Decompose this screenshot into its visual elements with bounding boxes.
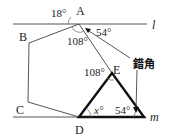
geometry-figure: 18° A 54° l B 108° 錯角 108° E C x° 54° m … [0, 0, 170, 140]
annotation-line-bottom [136, 70, 137, 111]
angle-label-x: x° [93, 104, 104, 116]
angle-label-108-a: 108° [67, 35, 88, 47]
point-label-d: D [75, 123, 84, 137]
arrowhead-top-icon [85, 28, 91, 33]
point-label-e: E [113, 63, 120, 77]
angle-arc-x [86, 108, 91, 117]
angle-arc-18 [68, 17, 71, 24]
angle-label-18: 18° [51, 7, 66, 19]
angle-arc-108-a [72, 27, 84, 32]
angle-label-54-top: 54° [96, 26, 111, 38]
annotation-label: 錯角 [133, 57, 155, 71]
point-label-c: C [16, 103, 24, 117]
line-label-m: m [150, 110, 159, 124]
point-label-b: B [19, 30, 27, 44]
point-label-a: A [76, 4, 85, 18]
angle-label-108-e: 108° [84, 66, 105, 78]
angle-label-54-bottom: 54° [115, 104, 130, 116]
line-label-l: l [152, 18, 156, 32]
